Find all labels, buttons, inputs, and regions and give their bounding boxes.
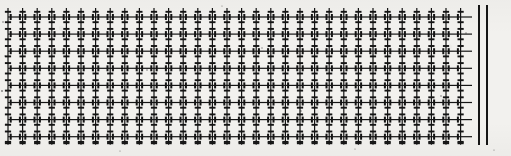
tick-dash-horizontal <box>136 38 142 40</box>
tick-dash-horizontal <box>268 11 274 13</box>
tick-dash-vertical <box>127 82 129 88</box>
tick-dash-horizontal <box>355 45 361 47</box>
tick-dash-horizontal <box>458 113 464 115</box>
tick-dash-vertical <box>428 14 430 20</box>
tick-dash-horizontal <box>107 107 113 109</box>
tick-dash-vertical <box>141 134 143 140</box>
tick-dash-vertical <box>404 82 406 88</box>
tick-dash-horizontal <box>5 142 11 144</box>
tick-dash-vertical <box>404 65 406 71</box>
tick-dash-vertical <box>156 100 158 106</box>
tick-dash-vertical <box>448 14 450 20</box>
tick-dash-horizontal <box>414 131 420 133</box>
tick-dash-horizontal <box>107 55 113 57</box>
tick-dash-horizontal <box>20 62 26 64</box>
tick-dash-horizontal <box>93 131 99 133</box>
tick-dash-vertical <box>185 82 187 88</box>
tick-dash-vertical <box>83 14 85 20</box>
tick-dash-vertical <box>200 100 202 106</box>
tick-dash-vertical <box>24 14 26 20</box>
tick-dash-vertical <box>331 100 333 106</box>
tick-dash-vertical <box>340 65 342 71</box>
tick-dash-vertical <box>282 31 284 37</box>
tick-dash-vertical <box>355 31 357 37</box>
tick-dash-vertical <box>150 48 152 54</box>
tick-dash-vertical <box>258 14 260 20</box>
tick-dash-vertical <box>136 31 138 37</box>
tick-dash-vertical <box>296 48 298 54</box>
tick-dash-horizontal <box>370 55 376 57</box>
tick-dash-vertical <box>238 65 240 71</box>
tick-dash-vertical <box>326 100 328 106</box>
tick-dash-horizontal <box>195 96 201 98</box>
tick-dash-horizontal <box>93 90 99 92</box>
tick-dash-horizontal <box>341 45 347 47</box>
tick-dash-vertical <box>413 65 415 71</box>
tick-dash-vertical <box>369 117 371 123</box>
tick-dash-vertical <box>258 48 260 54</box>
tick-dash-vertical <box>170 134 172 140</box>
tick-dash-vertical <box>267 48 269 54</box>
tick-dash-horizontal <box>20 73 26 75</box>
tick-dash-vertical <box>156 117 158 123</box>
tick-dash-horizontal <box>239 62 245 64</box>
tick-dash-horizontal <box>122 11 128 13</box>
tick-dash-vertical <box>112 48 114 54</box>
tick-dash-vertical <box>273 82 275 88</box>
tick-dash-horizontal <box>5 113 11 115</box>
tick-dash-vertical <box>369 82 371 88</box>
tick-dash-vertical <box>238 14 240 20</box>
tick-dash-horizontal <box>414 79 420 81</box>
tick-dash-horizontal <box>34 21 40 23</box>
tick-dash-vertical <box>369 65 371 71</box>
tick-dash-vertical <box>442 48 444 54</box>
tick-dash-vertical <box>287 82 289 88</box>
tick-dash-horizontal <box>180 131 186 133</box>
tick-dash-horizontal <box>326 55 332 57</box>
tick-dash-vertical <box>10 134 12 140</box>
tick-dash-horizontal <box>355 62 361 64</box>
tick-dash-horizontal <box>107 124 113 126</box>
tick-dash-vertical <box>200 48 202 54</box>
tick-dash-horizontal <box>253 28 259 30</box>
tick-dash-horizontal <box>195 28 201 30</box>
tick-dash-vertical <box>121 14 123 20</box>
tick-dash-vertical <box>258 134 260 140</box>
tick-dash-vertical <box>19 65 21 71</box>
tick-dash-horizontal <box>78 38 84 40</box>
tick-dash-horizontal <box>122 55 128 57</box>
tick-dash-vertical <box>384 82 386 88</box>
tick-dash-vertical <box>83 100 85 106</box>
tick-dash-vertical <box>223 100 225 106</box>
tick-dash-vertical <box>243 14 245 20</box>
tick-dash-horizontal <box>209 107 215 109</box>
tick-dash-vertical <box>39 14 41 20</box>
tick-dash-horizontal <box>107 142 113 144</box>
tick-dash-horizontal <box>399 55 405 57</box>
tick-dash-horizontal <box>63 96 69 98</box>
tick-dash-horizontal <box>355 11 361 13</box>
tick-dash-horizontal <box>78 113 84 115</box>
tick-dash-vertical <box>384 100 386 106</box>
tick-dash-vertical <box>384 48 386 54</box>
tick-dash-vertical <box>253 65 255 71</box>
tick-dash-horizontal <box>63 28 69 30</box>
tick-dash-horizontal <box>341 73 347 75</box>
tick-dash-horizontal <box>20 131 26 133</box>
tick-dash-vertical <box>34 48 36 54</box>
tick-dash-vertical <box>229 134 231 140</box>
tick-dash-vertical <box>287 48 289 54</box>
tick-dash-horizontal <box>443 62 449 64</box>
tick-dash-vertical <box>229 117 231 123</box>
tick-dash-horizontal <box>224 11 230 13</box>
tick-dash-vertical <box>136 48 138 54</box>
tick-dash-horizontal <box>166 11 172 13</box>
tick-dash-horizontal <box>282 79 288 81</box>
tick-dash-vertical <box>48 100 50 106</box>
tick-dash-vertical <box>34 31 36 37</box>
tick-dash-vertical <box>223 48 225 54</box>
tick-dash-horizontal <box>20 55 26 57</box>
tick-dash-horizontal <box>180 113 186 115</box>
tick-dash-vertical <box>180 117 182 123</box>
tick-dash-horizontal <box>195 113 201 115</box>
